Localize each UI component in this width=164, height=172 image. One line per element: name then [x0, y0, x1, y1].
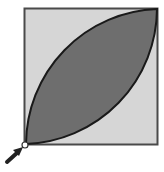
arrow-icon [7, 147, 23, 162]
lens-diagram [0, 0, 164, 172]
